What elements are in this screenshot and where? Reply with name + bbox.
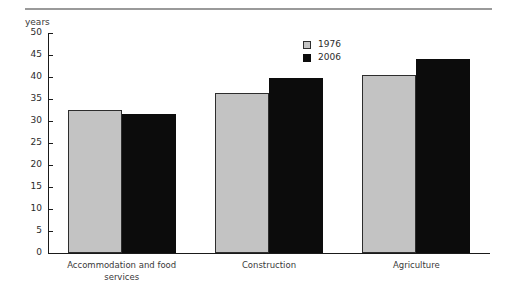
y-axis-tick-label: 45: [31, 49, 42, 60]
bar-1976-2: [215, 93, 269, 253]
y-axis-tick-mark: [48, 77, 53, 78]
legend-swatch-icon: [303, 41, 311, 49]
y-axis-tick-label: 20: [31, 159, 42, 170]
y-axis-tick-label: 5: [36, 225, 42, 236]
bar-2006-3: [416, 59, 470, 253]
y-axis-tick-label: 10: [31, 203, 42, 214]
y-axis-tick-mark: [48, 99, 53, 100]
y-axis-tick-mark: [48, 143, 53, 144]
y-axis-tick-label: 35: [31, 93, 42, 104]
legend-item-2006: 2006: [303, 51, 341, 64]
y-axis-tick-mark: [48, 165, 53, 166]
bar-2006-2: [269, 78, 323, 253]
y-axis-tick-mark: [48, 187, 53, 188]
y-axis-tick-label: 15: [31, 181, 42, 192]
y-axis-tick-mark: [48, 231, 53, 232]
bar-2006-1: [122, 114, 176, 253]
y-axis-tick-mark: [48, 33, 53, 34]
y-axis-tick-mark: [48, 209, 53, 210]
y-axis-tick-mark: [48, 55, 53, 56]
bar-chart-figure: years 50454035302520151050 Accommodation…: [0, 0, 505, 303]
bar-1976-1: [68, 110, 122, 253]
bar-1976-3: [362, 75, 416, 253]
x-axis-category-label: Construction: [195, 259, 342, 271]
legend-item-label: 1976: [318, 38, 341, 51]
x-axis-category-label: Agriculture: [343, 259, 490, 271]
y-axis-tick-label: 0: [36, 247, 42, 258]
y-axis-tick-label: 30: [31, 115, 42, 126]
chart-legend: 19762006: [303, 38, 341, 64]
legend-swatch-icon: [303, 54, 311, 62]
plot-area: 50454035302520151050 Accommodation and f…: [48, 33, 490, 253]
y-axis-tick-label: 50: [31, 27, 42, 38]
y-axis-tick-label: 40: [31, 71, 42, 82]
y-axis-tick-label: 25: [31, 137, 42, 148]
legend-item-label: 2006: [318, 51, 341, 64]
top-divider-rule: [25, 8, 492, 10]
x-axis-category-label: Accommodation and food services: [48, 259, 195, 283]
x-axis-line: [48, 253, 490, 254]
y-axis-tick-mark: [48, 121, 53, 122]
legend-item-1976: 1976: [303, 38, 341, 51]
